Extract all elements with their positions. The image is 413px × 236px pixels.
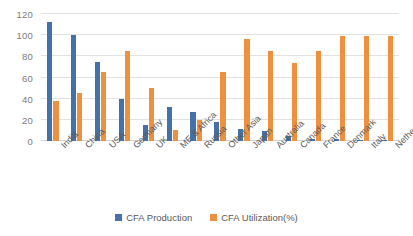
x-axis-tick-australia: Australia	[274, 143, 281, 150]
y-axis-tick-40: 40	[22, 93, 33, 104]
legend-entry[interactable]: CFA Utilization(%)	[210, 212, 298, 223]
x-axis-tick-other-asia: Other Asia	[226, 143, 233, 150]
bar	[71, 35, 76, 141]
x-axis-tick-italy: Italy	[369, 143, 376, 150]
x-axis-tick-uk: UK	[154, 143, 161, 150]
bar	[173, 130, 178, 141]
chart-legend: CFA ProductionCFA Utilization(%)	[0, 212, 413, 223]
x-axis-tick-denmark: Denmark	[345, 143, 352, 150]
bar-group	[160, 14, 184, 141]
bar	[388, 36, 393, 141]
x-axis-tick-china: China	[83, 143, 90, 150]
legend-label: CFA Utilization(%)	[221, 212, 298, 223]
bar-group	[41, 14, 65, 141]
bar	[53, 101, 58, 141]
y-axis-tick-120: 120	[17, 9, 33, 20]
legend-swatch-icon	[210, 214, 217, 221]
y-axis-tick-0: 0	[28, 136, 33, 147]
bar-group	[327, 14, 351, 141]
bars-layer	[41, 14, 399, 141]
x-axis-tick-me-africa: ME & Africa	[178, 143, 185, 150]
bar-group	[304, 14, 328, 141]
x-axis-tick-india: India	[59, 143, 66, 150]
bar-group	[65, 14, 89, 141]
x-axis-tick-france: France	[321, 143, 328, 150]
x-axis-tick-germany: Germany	[131, 143, 138, 150]
legend-label: CFA Production	[126, 212, 192, 223]
legend-entry[interactable]: CFA Production	[115, 212, 192, 223]
y-axis: 020406080100120	[0, 0, 38, 155]
bar	[167, 107, 172, 141]
x-axis-tick-canada: Canada	[298, 143, 305, 150]
x-axis-tick-japan: Japan	[250, 143, 257, 150]
bar	[47, 22, 52, 141]
plot-area	[41, 14, 399, 141]
legend-swatch-icon	[115, 214, 122, 221]
x-axis: IndiaChinaUSAGermanyUKME & AfricaRussiaO…	[41, 143, 399, 203]
x-axis-tick-russia: Russia	[202, 143, 209, 150]
y-axis-tick-20: 20	[22, 114, 33, 125]
bar-group	[89, 14, 113, 141]
bar-group	[375, 14, 399, 141]
bar	[125, 51, 130, 141]
y-axis-tick-60: 60	[22, 72, 33, 83]
x-axis-tick-netherlands: Netherlands	[393, 143, 400, 150]
y-axis-tick-80: 80	[22, 51, 33, 62]
y-axis-tick-100: 100	[17, 30, 33, 41]
x-axis-tick-usa: USA	[107, 143, 114, 150]
bar-chart: 020406080100120 IndiaChinaUSAGermanyUKME…	[0, 0, 413, 236]
bar-group	[113, 14, 137, 141]
